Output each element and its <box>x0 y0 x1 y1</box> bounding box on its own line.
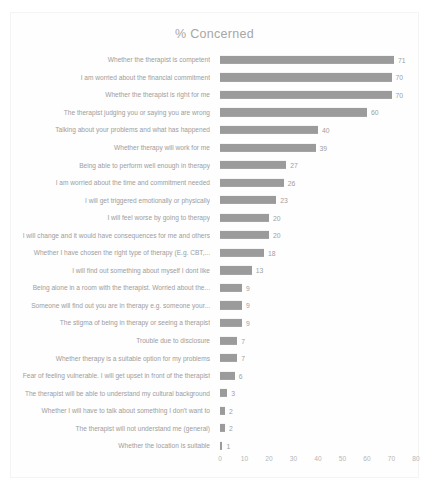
bar <box>220 214 269 222</box>
chart-title: % Concerned <box>11 27 418 41</box>
bar-track: 6 <box>220 367 418 385</box>
bar-track: 26 <box>220 174 418 192</box>
bar-value-label: 27 <box>290 162 298 169</box>
x-axis-tick: 40 <box>314 455 321 462</box>
category-label: Whether the location is suitable <box>11 441 210 450</box>
category-label: I am worried about the time and commitme… <box>11 178 210 187</box>
bar-row: Being able to perform well enough in the… <box>11 156 418 174</box>
x-axis-tick: 30 <box>290 455 297 462</box>
bar-row: Fear of feeling vulnerable. I will get u… <box>11 367 418 385</box>
bar-value-label: 7 <box>241 355 245 362</box>
bar-value-label: 9 <box>246 302 250 309</box>
bar-row: Whether the location is suitable1 <box>11 437 418 455</box>
category-label: The therapist judging you or saying you … <box>11 108 210 117</box>
bar-track: 9 <box>220 314 418 332</box>
category-label: Someone will find out you are in therapy… <box>11 301 210 310</box>
bar-row: Whether therapy is a suitable option for… <box>11 349 418 367</box>
bar <box>220 161 286 169</box>
bar-value-label: 39 <box>320 144 328 151</box>
category-label: I am worried about the financial commitm… <box>11 73 210 82</box>
bar-value-label: 60 <box>371 109 379 116</box>
category-label: The therapist will not understand me (ge… <box>11 424 210 433</box>
bar-value-label: 2 <box>229 425 233 432</box>
bar-row: Whether I will have to talk about someth… <box>11 402 418 420</box>
bar-track: 2 <box>220 402 418 420</box>
bar-track: 39 <box>220 139 418 157</box>
bar-track: 2 <box>220 419 418 437</box>
x-axis-tick: 70 <box>388 455 395 462</box>
bar-value-label: 9 <box>246 284 250 291</box>
bar-track: 60 <box>220 104 418 122</box>
bar-value-label: 26 <box>288 179 296 186</box>
bar-row: The therapist judging you or saying you … <box>11 104 418 122</box>
bar-row: I will feel worse by going to therapy20 <box>11 209 418 227</box>
bar-value-label: 40 <box>322 126 330 133</box>
bar-track: 27 <box>220 156 418 174</box>
bar-track: 70 <box>220 86 418 104</box>
bar-track: 3 <box>220 384 418 402</box>
bar-value-label: 18 <box>268 249 276 256</box>
bar-track: 9 <box>220 279 418 297</box>
bar <box>220 143 316 151</box>
bar <box>220 249 264 257</box>
bar <box>220 407 225 415</box>
bar <box>220 319 242 327</box>
bar-track: 70 <box>220 69 418 87</box>
bar <box>220 91 392 99</box>
bar <box>220 126 318 134</box>
bar-row: Being alone in a room with the therapist… <box>11 279 418 297</box>
category-label: Being alone in a room with the therapist… <box>11 283 210 292</box>
x-axis-tick: 60 <box>363 455 370 462</box>
bar-value-label: 20 <box>273 214 281 221</box>
bar-track: 7 <box>220 332 418 350</box>
x-axis-tick: 80 <box>412 455 419 462</box>
chart-card: % Concerned Whether the therapist is com… <box>10 12 419 478</box>
bar-track: 23 <box>220 191 418 209</box>
bar-row: I am worried about the time and commitme… <box>11 174 418 192</box>
category-label: Being able to perform well enough in the… <box>11 161 210 170</box>
bar-track: 40 <box>220 121 418 139</box>
x-axis-tick: 0 <box>218 455 222 462</box>
bar-row: Whether the therapist is right for me70 <box>11 86 418 104</box>
category-label: Whether the therapist is right for me <box>11 90 210 99</box>
bar-track: 13 <box>220 262 418 280</box>
bar-row: Whether I have chosen the right type of … <box>11 244 418 262</box>
bar-value-label: 70 <box>396 74 404 81</box>
category-label: I will feel worse by going to therapy <box>11 213 210 222</box>
bar <box>220 196 276 204</box>
category-label: Fear of feeling vulnerable. I will get u… <box>11 371 210 380</box>
category-label: Whether the therapist is competent <box>11 55 210 64</box>
category-label: Whether therapy will work for me <box>11 143 210 152</box>
category-label: The therapist will be able to understand… <box>11 389 210 398</box>
bar-row: The therapist will be able to understand… <box>11 384 418 402</box>
bar-value-label: 23 <box>280 197 288 204</box>
bar-value-label: 20 <box>273 232 281 239</box>
bar <box>220 389 227 397</box>
category-label: Whether I will have to talk about someth… <box>11 406 210 415</box>
bar-track: 7 <box>220 349 418 367</box>
bar <box>220 73 392 81</box>
bar <box>220 354 237 362</box>
bar-track: 18 <box>220 244 418 262</box>
category-label: I will get triggered emotionally or phys… <box>11 196 210 205</box>
category-label: I will find out something about myself I… <box>11 266 210 275</box>
bar-value-label: 3 <box>231 390 235 397</box>
bar <box>220 372 235 380</box>
bar-row: I will find out something about myself I… <box>11 262 418 280</box>
bar-track: 1 <box>220 437 418 455</box>
bar-value-label: 71 <box>398 56 406 63</box>
bar-track: 20 <box>220 226 418 244</box>
bar-row: The therapist will not understand me (ge… <box>11 419 418 437</box>
plot-area: Whether the therapist is competent71I am… <box>11 51 418 477</box>
x-axis-tick: 10 <box>241 455 248 462</box>
bar <box>220 336 237 344</box>
bar <box>220 231 269 239</box>
category-label: Trouble due to disclosure <box>11 336 210 345</box>
bar-value-label: 7 <box>241 337 245 344</box>
bar-track: 20 <box>220 209 418 227</box>
bar <box>220 56 394 64</box>
x-axis-tick: 50 <box>339 455 346 462</box>
bar <box>220 108 367 116</box>
category-label: Whether I have chosen the right type of … <box>11 248 210 257</box>
bar-row: Trouble due to disclosure7 <box>11 332 418 350</box>
